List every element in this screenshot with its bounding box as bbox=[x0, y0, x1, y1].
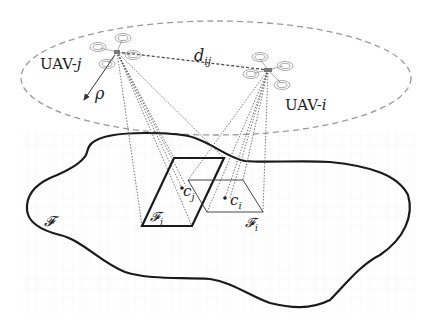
centroid-i-dot bbox=[223, 196, 227, 200]
fov-j-label: 𝓕j bbox=[150, 210, 163, 227]
centroid-j-label: cj bbox=[183, 184, 195, 202]
quadcopter-icon bbox=[243, 53, 293, 90]
communication-range-ellipse bbox=[21, 21, 411, 135]
fov-i-label: 𝓕i bbox=[245, 216, 258, 233]
centroid-i-label: ci bbox=[230, 193, 242, 211]
rho-label: ρ bbox=[95, 86, 104, 102]
uav-j-label: UAV-j bbox=[40, 57, 81, 72]
distance-dij-label: dij bbox=[194, 48, 211, 67]
uav-i-label: UAV-i bbox=[285, 98, 327, 113]
inter-uav-distance-line bbox=[117, 52, 268, 70]
uav-coverage-diagram: UAV-j UAV-i dij ρ 𝓕 𝓕j 𝓕i cj ci bbox=[0, 0, 431, 322]
diagram-canvas bbox=[0, 0, 431, 322]
quadcopter-icon bbox=[90, 34, 141, 69]
environment-region-label: 𝓕 bbox=[44, 214, 54, 228]
